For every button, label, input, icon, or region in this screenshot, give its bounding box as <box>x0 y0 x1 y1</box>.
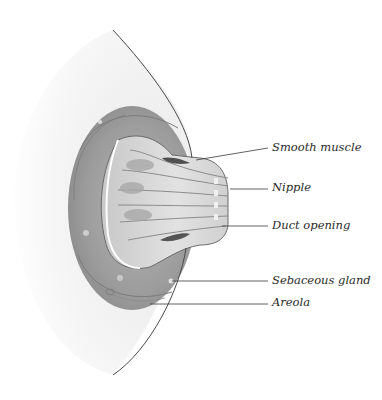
nipple-anatomy-illustration <box>0 0 382 400</box>
label-areola: Areola <box>272 297 310 309</box>
nipple-cross-section <box>101 136 228 269</box>
label-smooth-muscle: Smooth muscle <box>272 142 361 154</box>
label-duct-opening: Duct opening <box>272 220 350 232</box>
label-nipple: Nipple <box>272 182 311 194</box>
label-sebaceous-gland: Sebaceous gland <box>272 275 371 287</box>
